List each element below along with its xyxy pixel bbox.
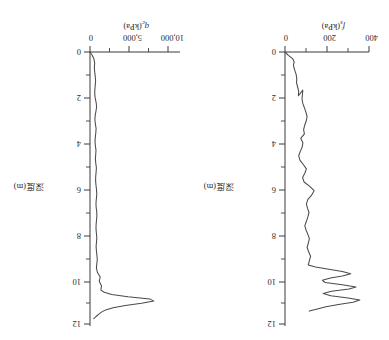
x-axis-unit-qc: (kPa)	[123, 22, 141, 32]
x-tick-label-fs-200: 200	[323, 33, 336, 43]
x-tick-label-qc-10000: 10,000	[161, 33, 184, 43]
y-tick-label-fs-12: 12	[268, 319, 277, 329]
y-ticks-qc	[84, 52, 90, 324]
x-tick-label-qc-5000: 5,000	[123, 33, 142, 43]
y-tick-label-qc-8: 8	[77, 231, 81, 241]
y-tick-label-fs-6: 6	[272, 185, 276, 195]
figure-canvas: 0 200 400 0 2 4 6 8 10 12 fs(kPa) 深度(m)	[0, 0, 389, 340]
y-tick-label-qc-12: 12	[73, 319, 82, 329]
y-tick-label-qc-6: 6	[77, 185, 81, 195]
plot-svg-fs	[195, 0, 389, 340]
x-axis-title-fs: fs(kPa)	[322, 20, 345, 32]
y-tick-label-fs-4: 4	[272, 139, 276, 149]
y-axis-title-qc: 深度(m)	[14, 182, 44, 194]
y-tick-label-qc-4: 4	[77, 139, 81, 149]
x-axis-title-qc: qc(kPa)	[123, 20, 149, 32]
y-tick-label-fs-10: 10	[268, 277, 277, 287]
y-tick-label-qc-2: 2	[77, 93, 81, 103]
x-axis-subscript-qc: c	[142, 20, 145, 27]
x-axis-symbol-qc: q	[145, 22, 149, 32]
plot-area-qc: 0 5,000 10,000 0 2 4 6 8 10 12 qc(kPa) 深…	[0, 0, 194, 340]
y-tick-label-fs-0: 0	[272, 47, 276, 57]
plot-area-fs: 0 200 400 0 2 4 6 8 10 12 fs(kPa) 深度(m)	[195, 0, 389, 340]
x-tick-label-qc-0: 0	[89, 33, 93, 43]
y-minor-ticks-qc	[86, 75, 90, 303]
x-ticks-qc	[90, 46, 168, 52]
fs-curve	[285, 52, 360, 311]
x-tick-label-fs-400: 400	[365, 33, 378, 43]
y-axis-title-fs: 深度(m)	[204, 182, 234, 194]
panel-cone-resistance: 0 5,000 10,000 0 2 4 6 8 10 12 qc(kPa) 深…	[0, 0, 194, 340]
y-tick-label-fs-2: 2	[272, 93, 276, 103]
x-tick-label-fs-0: 0	[284, 33, 288, 43]
y-tick-label-fs-8: 8	[272, 231, 276, 241]
x-ticks-fs	[285, 46, 369, 52]
y-tick-label-qc-10: 10	[73, 277, 82, 287]
qc-curve	[90, 52, 154, 319]
panel-sleeve-friction: 0 200 400 0 2 4 6 8 10 12 fs(kPa) 深度(m)	[195, 0, 389, 340]
y-tick-label-qc-0: 0	[77, 47, 81, 57]
plot-svg-qc	[0, 0, 194, 340]
x-axis-subscript-fs: s	[340, 20, 343, 27]
y-minor-ticks-fs	[281, 75, 285, 303]
y-ticks-fs	[279, 52, 285, 324]
x-axis-unit-fs: (kPa)	[322, 22, 340, 32]
